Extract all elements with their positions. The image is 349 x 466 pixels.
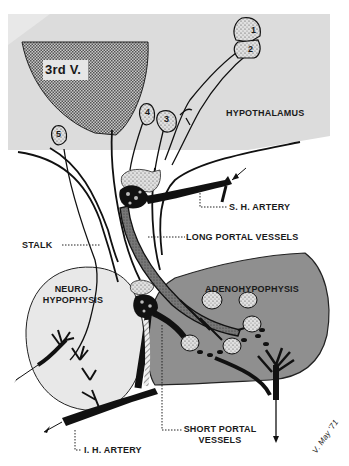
adenohypophysis (148, 253, 329, 385)
label-short-portal-vessels-line2: VESSELS (180, 435, 260, 446)
label-short-portal-vessels-line1: SHORT PORTAL (180, 424, 260, 435)
label-ih-artery: I. H. ARTERY (84, 445, 142, 455)
label-neuron-4: 4 (145, 107, 150, 117)
label-adenohypophysis: ADENOHYPOPHYSIS (205, 284, 299, 294)
label-neuron-2: 2 (248, 44, 253, 54)
outflow-arrow-icon (273, 436, 279, 443)
label-neuron-1: 1 (251, 25, 256, 35)
neuron-1 (234, 18, 260, 42)
label-third-ventricle: 3rd V. (45, 62, 81, 77)
label-neuron-3: 3 (164, 114, 169, 124)
label-short-portal-vessels: SHORT PORTAL VESSELS (180, 424, 260, 446)
label-neuron-5: 5 (56, 129, 61, 139)
label-long-portal-vessels: LONG PORTAL VESSELS (186, 232, 298, 242)
pituitary-portal-diagram: 3rd V. HYPOTHALAMUS 1 2 3 4 5 S. H. ARTE… (0, 0, 349, 466)
label-neurohypophysis-line1: NEURO- (38, 284, 108, 295)
label-neurohypophysis-line2: HYPOPHYSIS (38, 295, 108, 306)
label-stalk: STALK (22, 240, 52, 250)
label-hypothalamus: HYPOTHALAMUS (226, 108, 304, 118)
label-neurohypophysis: NEURO- HYPOPHYSIS (38, 284, 108, 306)
neuro-outflow-arrow-icon (14, 376, 20, 383)
label-sh-artery: S. H. ARTERY (229, 202, 290, 212)
